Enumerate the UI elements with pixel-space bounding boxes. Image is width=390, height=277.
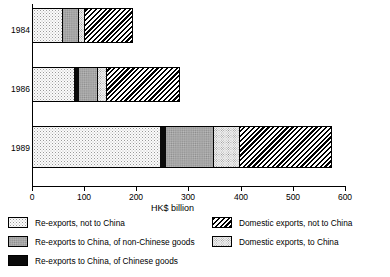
bar-segment-1986-domestic-exports-not-to-china	[106, 68, 179, 101]
segment-divider	[213, 127, 214, 167]
x-tick-label-500: 500	[273, 192, 313, 202]
bar-segment-1984-reexports-to-china-non-chinese	[62, 9, 78, 42]
x-tick-600	[345, 186, 346, 191]
x-tick-100	[84, 186, 85, 191]
legend-swatch-light-dotted-icon	[8, 217, 28, 228]
legend: Re-exports, not to China Re-exports to C…	[0, 213, 390, 277]
bar-segment-1989-reexports-not-to-china	[33, 127, 160, 167]
legend-item-reexports-to-china-non-chinese-goods: Re-exports to China, of non-Chinese good…	[8, 232, 208, 251]
legend-item-reexports-to-china-chinese-goods: Re-exports to China, of Chinese goods	[8, 251, 208, 270]
x-tick-500	[293, 186, 294, 191]
bar-segment-1986-reexports-to-china-non-chinese	[79, 68, 97, 101]
legend-label: Re-exports to China, of Chinese goods	[35, 256, 178, 266]
segment-divider	[84, 9, 85, 42]
legend-label: Domestic exports, to China	[239, 237, 339, 247]
legend-item-reexports-not-to-china: Re-exports, not to China	[8, 213, 208, 232]
legend-item-domestic-exports-to-china: Domestic exports, to China	[212, 232, 390, 251]
y-category-label-1984: 1984	[2, 25, 30, 35]
legend-label: Re-exports to China, of non-Chinese good…	[35, 237, 195, 247]
legend-item-domestic-exports-not-to-china: Domestic exports, not to China	[212, 213, 390, 232]
y-category-label-1989: 1989	[2, 143, 30, 153]
x-tick-label-100: 100	[64, 192, 104, 202]
x-tick-label-200: 200	[116, 192, 156, 202]
x-axis-title: HK$ billion	[0, 203, 345, 213]
segment-divider	[106, 68, 107, 101]
segment-divider	[78, 9, 79, 42]
segment-divider	[97, 68, 98, 101]
legend-swatch-hatch-icon	[212, 217, 232, 228]
chart-container: 0 100 200 300 400 500 600 1984 1986 1989	[0, 0, 390, 277]
legend-column-left: Re-exports, not to China Re-exports to C…	[8, 213, 208, 270]
x-tick-300	[188, 186, 189, 191]
legend-swatch-black-icon	[8, 255, 28, 266]
x-tick-label-300: 300	[168, 192, 208, 202]
legend-swatch-medium-dotted-icon	[212, 236, 232, 247]
bar-segment-1989-domestic-exports-to-china	[213, 127, 239, 167]
x-tick-400	[241, 186, 242, 191]
bar-row-1989	[32, 126, 332, 168]
bar-segment-1989-domestic-exports-not-to-china	[239, 127, 331, 167]
bar-segment-1984-domestic-exports-not-to-china	[84, 9, 132, 42]
x-tick-label-0: 0	[12, 192, 52, 202]
x-tick-label-400: 400	[221, 192, 261, 202]
bar-segment-1986-reexports-not-to-china	[33, 68, 74, 101]
legend-swatch-gray-icon	[8, 236, 28, 247]
bar-row-1984	[32, 8, 133, 43]
legend-label: Domestic exports, not to China	[239, 218, 352, 228]
segment-divider	[62, 9, 63, 42]
x-tick-200	[136, 186, 137, 191]
bar-segment-1989-reexports-to-china-non-chinese	[166, 127, 213, 167]
y-category-label-1986: 1986	[2, 84, 30, 94]
bar-row-1986	[32, 67, 180, 102]
x-tick-0	[32, 186, 33, 191]
bar-segment-1986-domestic-exports-to-china	[97, 68, 106, 101]
bar-segment-1984-reexports-not-to-china	[33, 9, 62, 42]
x-tick-label-600: 600	[325, 192, 365, 202]
legend-label: Re-exports, not to China	[35, 218, 125, 228]
legend-column-right: Domestic exports, not to China Domestic …	[212, 213, 390, 251]
segment-divider	[239, 127, 240, 167]
plot-area: 0 100 200 300 400 500 600 1984 1986 1989	[0, 0, 390, 200]
